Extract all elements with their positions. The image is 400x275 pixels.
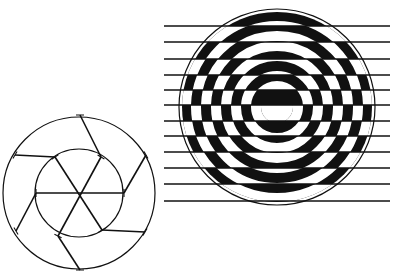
connector-line xyxy=(124,155,146,193)
connector-line xyxy=(58,236,80,270)
concentric-checker-disc xyxy=(156,0,398,228)
hexagon-spoke-diagram xyxy=(3,115,155,270)
connector-line xyxy=(16,193,36,231)
checker-rings xyxy=(156,0,398,228)
connector-line xyxy=(102,230,145,232)
spoke-line xyxy=(58,157,101,236)
figure-canvas xyxy=(0,0,400,275)
connector-line xyxy=(15,155,55,157)
